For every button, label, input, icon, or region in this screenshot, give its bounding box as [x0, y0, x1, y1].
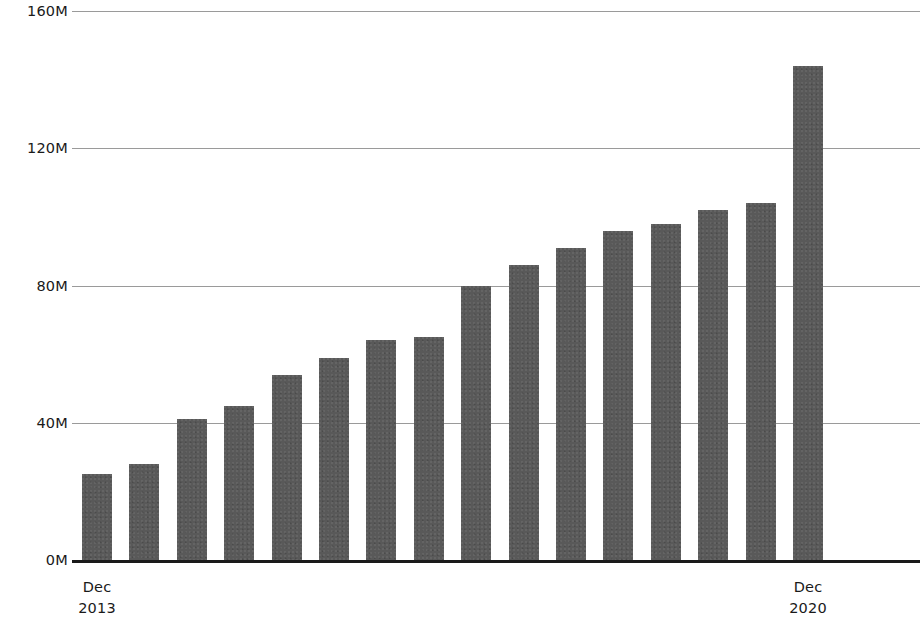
x-axis-label: Dec2020	[758, 577, 858, 619]
y-axis-label-80M: 80M	[4, 278, 68, 293]
y-axis-label-40M: 40M	[4, 416, 68, 431]
bar	[366, 340, 396, 560]
bar	[319, 358, 349, 560]
bar	[461, 286, 491, 561]
x-axis-label-month: Dec	[83, 579, 112, 595]
x-axis-label-year: 2013	[47, 598, 147, 619]
bar	[177, 419, 207, 560]
bar-chart: 0M40M80M120M160M Dec2013Dec2020	[0, 0, 920, 627]
bar	[603, 231, 633, 560]
bar	[746, 203, 776, 560]
y-axis-label-120M: 120M	[4, 141, 68, 156]
bar	[698, 210, 728, 560]
y-axis-label-160M: 160M	[4, 4, 68, 19]
bar	[224, 406, 254, 560]
bar	[414, 337, 444, 560]
bar	[272, 375, 302, 560]
bar	[129, 464, 159, 560]
bar	[509, 265, 539, 560]
bar	[82, 474, 112, 560]
plot-area	[72, 0, 920, 627]
bar	[651, 224, 681, 560]
x-axis-label: Dec2013	[47, 577, 147, 619]
bar	[556, 248, 586, 560]
x-axis-label-month: Dec	[794, 579, 823, 595]
bar	[793, 66, 823, 560]
x-axis-label-year: 2020	[758, 598, 858, 619]
y-axis-label-0M: 0M	[4, 553, 68, 568]
